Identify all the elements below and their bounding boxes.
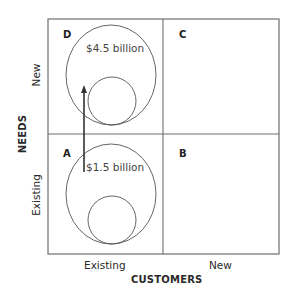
matrix-graphics bbox=[0, 0, 292, 299]
quadrant-d-small-circle bbox=[88, 77, 136, 125]
y-axis-category-new: New bbox=[30, 64, 42, 87]
quadrant-a-letter: A bbox=[63, 148, 71, 159]
ansoff-style-matrix-diagram: D C A B $4.5 billion $1.5 billion New NE… bbox=[0, 0, 292, 299]
quadrant-c-letter: C bbox=[179, 29, 186, 40]
quadrant-d-value: $4.5 billion bbox=[86, 42, 144, 54]
y-axis-category-existing: Existing bbox=[30, 174, 42, 216]
x-axis-title: CUSTOMERS bbox=[131, 274, 202, 285]
arrow-head-icon bbox=[81, 85, 87, 93]
quadrant-d-large-circle bbox=[66, 25, 156, 125]
y-axis-title: NEEDS bbox=[17, 115, 28, 154]
quadrant-b-letter: B bbox=[179, 148, 187, 159]
quadrant-a-large-circle bbox=[66, 144, 156, 244]
quadrant-d-letter: D bbox=[63, 29, 71, 40]
quadrant-a-small-circle bbox=[88, 196, 136, 244]
x-axis-category-new: New bbox=[209, 259, 232, 271]
x-axis-category-existing: Existing bbox=[84, 259, 126, 271]
quadrant-a-value: $1.5 billion bbox=[86, 161, 144, 173]
